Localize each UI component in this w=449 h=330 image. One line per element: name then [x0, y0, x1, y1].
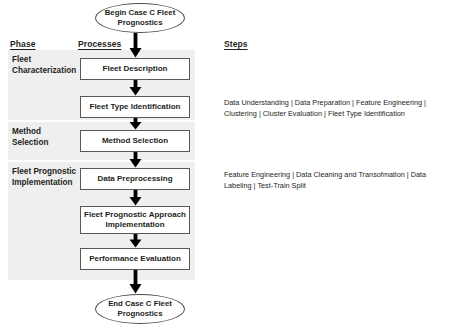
process-box-data-preprocessing: Data Preprocessing — [80, 168, 190, 190]
arrow-start-to-fleet-description — [129, 33, 142, 58]
arrow-method-selection-to-data-preprocessing — [129, 152, 142, 168]
column-header-steps: Steps — [224, 39, 248, 49]
phase-label-method-selection: Method Selection — [12, 127, 78, 148]
start-terminator: Begin Case C Fleet Prognostics — [95, 3, 185, 33]
steps-text-implementation: Feature Engineering | Data Cleaning and … — [224, 170, 446, 191]
phase-label-characterization: Fleet Characterization — [12, 55, 78, 76]
process-box-fleet-prognostic-approach-implementation: Fleet Prognostic Approach Implementation — [80, 206, 190, 234]
column-header-phase: Phase — [10, 39, 36, 49]
arrow-data-preprocessing-to-fleet-prognostic-approach — [129, 190, 142, 206]
process-box-fleet-description: Fleet Description — [80, 58, 190, 80]
end-terminator: End Case C Fleet Prognostics — [95, 294, 185, 324]
arrow-fleet-type-identification-to-method-selection — [129, 118, 142, 130]
flowchart-canvas: Phase Processes Steps Fleet Characteriza… — [0, 0, 449, 330]
process-box-performance-evaluation: Performance Evaluation — [80, 248, 190, 270]
arrow-performance-evaluation-to-end — [129, 270, 142, 294]
arrow-fleet-description-to-fleet-type-identification — [129, 80, 142, 96]
phase-label-implementation: Fleet Prognostic Implementation — [12, 167, 78, 188]
column-header-processes: Processes — [78, 39, 121, 49]
steps-text-characterization: Data Understanding | Data Preparation | … — [224, 98, 446, 119]
arrow-fleet-prognostic-approach-to-performance-evaluation — [129, 234, 142, 248]
process-box-method-selection: Method Selection — [80, 130, 190, 152]
process-box-fleet-type-identification: Fleet Type Identification — [80, 96, 190, 118]
